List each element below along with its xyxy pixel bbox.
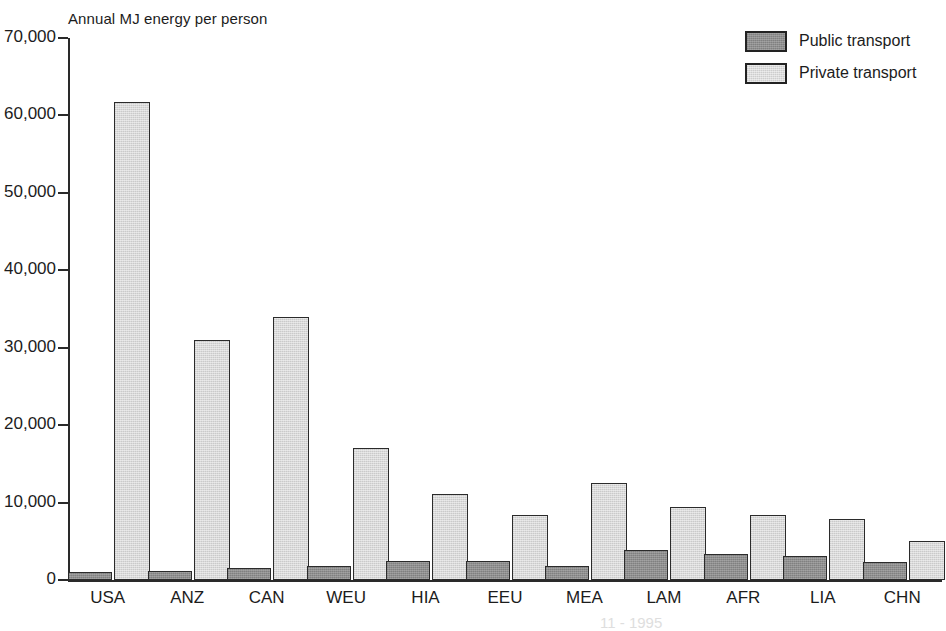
bar-group bbox=[624, 38, 706, 580]
bar-group bbox=[704, 38, 786, 580]
bar-group bbox=[386, 38, 468, 580]
y-axis-tick-label: 50,000 bbox=[0, 182, 56, 202]
bar-public-transport bbox=[863, 562, 907, 580]
bar-group bbox=[307, 38, 389, 580]
y-axis-tick-label: 40,000 bbox=[0, 259, 56, 279]
y-axis-tick-label: 20,000 bbox=[0, 414, 56, 434]
y-axis-tick bbox=[58, 502, 68, 504]
bar-public-transport bbox=[466, 561, 510, 580]
bar-private-transport bbox=[909, 541, 945, 580]
bar-private-transport bbox=[114, 102, 150, 580]
bar-public-transport bbox=[545, 566, 589, 580]
x-axis-label-usa: USA bbox=[68, 588, 147, 608]
bar-group bbox=[466, 38, 548, 580]
chart-legend: Public transportPrivate transport bbox=[745, 28, 916, 92]
bar-private-transport bbox=[194, 340, 230, 580]
y-axis-tick-label: 60,000 bbox=[0, 104, 56, 124]
bar-private-transport bbox=[829, 519, 865, 580]
bar-public-transport bbox=[227, 568, 271, 580]
bar-private-transport bbox=[670, 507, 706, 580]
y-axis-tick bbox=[58, 347, 68, 349]
legend-item: Private transport bbox=[745, 60, 916, 86]
bar-group bbox=[783, 38, 865, 580]
y-axis-tick-label: 0 bbox=[0, 569, 56, 589]
bar-private-transport bbox=[750, 515, 786, 580]
x-axis-label-weu: WEU bbox=[306, 588, 385, 608]
y-axis-tick bbox=[58, 424, 68, 426]
y-axis-tick bbox=[58, 579, 68, 581]
x-axis-label-eeu: EEU bbox=[465, 588, 544, 608]
y-axis-tick bbox=[58, 192, 68, 194]
x-axis-label-chn: CHN bbox=[863, 588, 942, 608]
footnote-text: 11 - 1995 bbox=[600, 614, 662, 631]
bar-private-transport bbox=[432, 494, 468, 580]
y-axis-tick-label: 30,000 bbox=[0, 337, 56, 357]
x-axis-line bbox=[68, 580, 942, 582]
bar-group bbox=[227, 38, 309, 580]
bar-public-transport bbox=[704, 554, 748, 580]
y-axis-tick-label: 70,000 bbox=[0, 27, 56, 47]
chart-title: Annual MJ energy per person bbox=[68, 10, 267, 27]
bar-public-transport bbox=[148, 571, 192, 580]
legend-swatch-private bbox=[745, 63, 787, 84]
bar-public-transport bbox=[307, 566, 351, 580]
bar-group bbox=[545, 38, 627, 580]
y-axis-tick bbox=[58, 269, 68, 271]
legend-label: Public transport bbox=[799, 32, 910, 50]
legend-label: Private transport bbox=[799, 64, 916, 82]
x-axis-label-lia: LIA bbox=[783, 588, 862, 608]
x-axis-label-can: CAN bbox=[227, 588, 306, 608]
x-axis-label-mea: MEA bbox=[545, 588, 624, 608]
bar-private-transport bbox=[353, 448, 389, 580]
bar-group bbox=[148, 38, 230, 580]
bar-private-transport bbox=[591, 483, 627, 580]
bar-public-transport bbox=[386, 561, 430, 580]
bar-group bbox=[68, 38, 150, 580]
y-axis-tick bbox=[58, 114, 68, 116]
x-axis-label-afr: AFR bbox=[704, 588, 783, 608]
legend-item: Public transport bbox=[745, 28, 916, 54]
bar-private-transport bbox=[273, 317, 309, 580]
x-axis-label-lam: LAM bbox=[624, 588, 703, 608]
bar-public-transport bbox=[624, 550, 668, 580]
bar-public-transport bbox=[783, 556, 827, 580]
bar-group bbox=[863, 38, 945, 580]
bar-private-transport bbox=[512, 515, 548, 580]
x-axis-label-anz: ANZ bbox=[147, 588, 226, 608]
bar-public-transport bbox=[68, 572, 112, 580]
y-axis-tick bbox=[58, 37, 68, 39]
y-axis-tick-label: 10,000 bbox=[0, 492, 56, 512]
x-axis-label-hia: HIA bbox=[386, 588, 465, 608]
legend-swatch-public bbox=[745, 31, 787, 52]
